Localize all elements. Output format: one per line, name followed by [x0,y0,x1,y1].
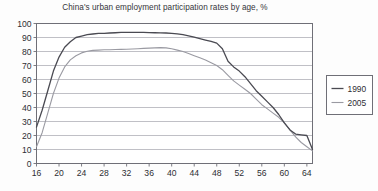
chart-title: China's urban employment participation r… [0,3,330,12]
svg-text:60: 60 [22,75,32,85]
svg-text:56: 56 [257,168,267,178]
svg-text:80: 80 [22,47,32,57]
svg-text:16: 16 [32,168,42,178]
svg-text:20: 20 [22,131,32,141]
svg-text:70: 70 [22,61,32,71]
svg-text:20: 20 [54,168,64,178]
svg-text:10: 10 [22,145,32,155]
legend-label-1990: 1990 [348,84,367,94]
svg-text:50: 50 [22,89,32,99]
svg-text:30: 30 [22,117,32,127]
svg-text:40: 40 [22,103,32,113]
svg-text:48: 48 [212,168,222,178]
svg-text:36: 36 [144,168,154,178]
y-axis-tick-labels: 0102030405060708090100 [17,19,32,169]
line-chart: 0102030405060708090100 16202428323640444… [0,0,378,191]
chart-legend: 19902005 [327,76,373,115]
svg-text:44: 44 [189,168,199,178]
svg-text:64: 64 [302,168,312,178]
svg-text:32: 32 [122,168,132,178]
legend-label-2005: 2005 [348,98,367,108]
svg-text:90: 90 [22,33,32,43]
svg-text:60: 60 [280,168,290,178]
x-axis-tick-labels: 16202428323640444852566064 [32,168,312,178]
svg-text:100: 100 [17,19,32,29]
grid-lines [37,24,313,164]
svg-text:52: 52 [234,168,244,178]
svg-text:28: 28 [99,168,109,178]
svg-text:24: 24 [77,168,87,178]
chart-figure: China's urban employment participation r… [0,0,378,191]
svg-text:40: 40 [167,168,177,178]
